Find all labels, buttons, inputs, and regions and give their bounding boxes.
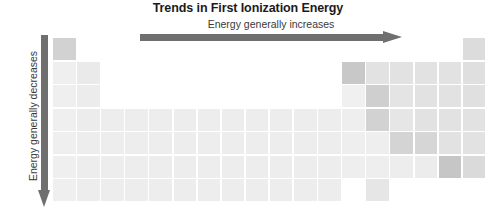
- element-cell: [439, 132, 462, 154]
- element-cell: [415, 156, 438, 178]
- element-cell: [222, 132, 245, 154]
- element-cell: [77, 179, 100, 201]
- element-cell: [366, 132, 389, 154]
- element-cell: [101, 156, 124, 178]
- element-cell: [415, 109, 438, 131]
- element-cell: [53, 179, 76, 201]
- element-cell: [342, 132, 365, 154]
- element-cell: [77, 132, 100, 154]
- element-cell: [415, 85, 438, 107]
- element-cell: [439, 109, 462, 131]
- element-cell: [125, 132, 148, 154]
- element-cell: [439, 85, 462, 107]
- element-cell: [294, 179, 317, 201]
- element-cell: [101, 179, 124, 201]
- element-cell: [246, 109, 269, 131]
- element-cell: [53, 62, 76, 84]
- element-cell: [342, 156, 365, 178]
- element-cell: [270, 109, 293, 131]
- element-cell: [198, 132, 221, 154]
- element-cell: [246, 179, 269, 201]
- element-cell: [149, 179, 172, 201]
- element-cell: [294, 156, 317, 178]
- element-cell: [318, 156, 341, 178]
- element-cell: [149, 132, 172, 154]
- element-cell: [125, 179, 148, 201]
- element-cell: [174, 179, 197, 201]
- element-cell: [198, 109, 221, 131]
- element-cell: [222, 156, 245, 178]
- element-cell: [318, 132, 341, 154]
- element-cell: [366, 109, 389, 131]
- element-cell: [342, 85, 365, 107]
- element-cell: [390, 132, 413, 154]
- element-cell: [366, 179, 389, 201]
- element-cell: [390, 156, 413, 178]
- element-cell: [149, 156, 172, 178]
- element-cell: [463, 132, 486, 154]
- element-cell: [77, 156, 100, 178]
- element-cell: [77, 85, 100, 107]
- element-cell: [53, 85, 76, 107]
- element-cell: [270, 156, 293, 178]
- element-cell: [174, 156, 197, 178]
- element-cell: [174, 132, 197, 154]
- element-cell: [294, 132, 317, 154]
- element-cell: [463, 85, 486, 107]
- element-cell: [53, 38, 76, 60]
- element-cell: [149, 109, 172, 131]
- element-cell: [222, 109, 245, 131]
- element-cell: [390, 109, 413, 131]
- element-cell: [270, 132, 293, 154]
- element-cell: [125, 109, 148, 131]
- element-cell: [415, 62, 438, 84]
- element-cell: [270, 179, 293, 201]
- element-cell: [463, 38, 486, 60]
- element-cell: [77, 62, 100, 84]
- element-cell: [174, 109, 197, 131]
- element-cell: [246, 156, 269, 178]
- element-cell: [366, 62, 389, 84]
- element-cell: [246, 132, 269, 154]
- element-cell: [101, 109, 124, 131]
- element-cell: [77, 109, 100, 131]
- element-cell: [342, 62, 365, 84]
- element-cell: [366, 85, 389, 107]
- element-cell: [53, 109, 76, 131]
- element-cell: [342, 109, 365, 131]
- element-cell: [439, 62, 462, 84]
- element-cell: [198, 179, 221, 201]
- element-cell: [318, 179, 341, 201]
- element-cell: [101, 132, 124, 154]
- element-cell: [366, 156, 389, 178]
- figure-canvas: Trends in First Ionization Energy Energy…: [0, 0, 496, 215]
- element-cell: [463, 62, 486, 84]
- element-cell: [318, 109, 341, 131]
- periodic-table-grid: [0, 0, 496, 215]
- element-cell: [53, 156, 76, 178]
- element-cell: [439, 156, 462, 178]
- element-cell: [294, 109, 317, 131]
- element-cell: [125, 156, 148, 178]
- element-cell: [390, 62, 413, 84]
- element-cell: [222, 179, 245, 201]
- element-cell: [198, 156, 221, 178]
- element-cell: [53, 132, 76, 154]
- element-cell: [463, 109, 486, 131]
- element-cell: [390, 85, 413, 107]
- element-cell: [415, 132, 438, 154]
- element-cell: [463, 156, 486, 178]
